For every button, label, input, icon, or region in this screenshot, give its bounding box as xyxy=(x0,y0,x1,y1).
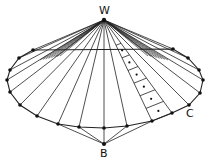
corner-label-c: C xyxy=(186,108,194,119)
apex-node xyxy=(102,18,106,22)
boundary-node xyxy=(56,122,60,126)
ray xyxy=(20,20,104,105)
boundary-node xyxy=(5,78,9,82)
boundary-node xyxy=(150,119,154,123)
boundary-node xyxy=(77,125,81,129)
boundary-node xyxy=(35,114,39,118)
bottom-label-b: B xyxy=(100,148,108,159)
cell-dot xyxy=(157,110,159,112)
boundary-node xyxy=(8,68,12,72)
cell-dot xyxy=(128,61,130,63)
boundary-node xyxy=(102,126,106,130)
boundary-node xyxy=(125,124,129,128)
bottom-edge xyxy=(79,127,104,144)
boundary-node xyxy=(170,111,174,115)
boundary-node xyxy=(171,47,175,51)
cell-divider xyxy=(140,90,155,96)
cell-divider xyxy=(134,78,147,83)
cell-dot xyxy=(121,49,123,51)
cell-divider xyxy=(152,113,172,121)
ray xyxy=(104,20,199,70)
cone-diagram-graphic xyxy=(0,0,208,161)
ray xyxy=(60,20,104,56)
cell-divider xyxy=(146,101,164,108)
cell-divider xyxy=(122,55,130,58)
bottom-node xyxy=(102,142,106,146)
cell-dot xyxy=(150,98,152,100)
cell-dot xyxy=(136,73,138,75)
boundary-node xyxy=(197,68,201,72)
cone-diagram: W B C xyxy=(0,0,208,161)
ray xyxy=(104,20,189,105)
boundary-node xyxy=(31,48,35,52)
apex-label-w: W xyxy=(99,5,110,16)
ray xyxy=(10,20,104,70)
boundary-node xyxy=(186,56,190,60)
boundary-node xyxy=(198,91,202,95)
boundary-node xyxy=(8,90,12,94)
cell-divider xyxy=(116,43,121,45)
boundary-node xyxy=(201,78,205,82)
cell-divider xyxy=(128,67,138,71)
boundary-node xyxy=(17,56,21,60)
cell-dot xyxy=(143,86,145,88)
boundary-node xyxy=(18,103,22,107)
bottom-edge xyxy=(104,121,152,144)
